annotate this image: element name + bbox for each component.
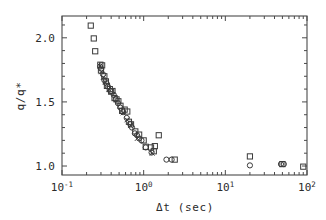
x-tick-label: 102 [298,180,316,195]
x-tick-label: 10-1 [51,180,73,195]
marker-square [301,164,306,169]
marker-square [156,133,161,138]
plot-frame [62,16,307,175]
y-axis-title: q/q* [14,82,27,111]
y-tick-label: 1.0 [35,160,55,173]
x-tick-label: 101 [216,180,234,195]
scatter-plot: 10-1100101102 2.01.51.0 Δt (sec) q/q* [0,0,326,220]
y-tick-label: 1.5 [35,96,55,109]
marker-square [247,154,252,159]
marker-square [152,144,157,149]
marker-square [88,23,93,28]
y-tick-label: 2.0 [35,32,55,45]
data-markers [88,23,306,169]
marker-circle [247,163,252,168]
y-tick-labels: 2.01.51.0 [35,32,55,173]
x-tick-labels: 10-1100101102 [51,180,316,195]
x-axis-title: Δt (sec) [156,201,214,214]
marker-square [93,49,98,54]
figure-container: 10-1100101102 2.01.51.0 Δt (sec) q/q* [0,0,326,220]
marker-square [91,36,96,41]
axis-ticks [62,16,307,175]
x-tick-label: 100 [135,180,153,195]
marker-circle [164,157,169,162]
axes-frame [62,16,307,175]
